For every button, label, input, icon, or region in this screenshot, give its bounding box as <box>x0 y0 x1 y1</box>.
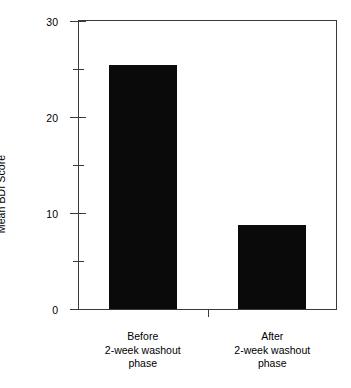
bar-chart-figure: Mean BDI Score 0102030 Before 2-week was… <box>0 0 351 388</box>
x-label-before-line2: 2-week washout <box>78 344 208 358</box>
x-label-after: After 2-week washout phase <box>208 330 338 386</box>
y-tick-inner-30 <box>79 21 86 22</box>
bar-before <box>109 65 177 309</box>
x-label-before: Before 2-week washout phase <box>78 330 208 386</box>
x-label-after-line3: phase <box>208 357 338 371</box>
y-axis-title-text: Mean BDI Score <box>0 155 7 233</box>
y-tick-inner-20 <box>79 117 86 118</box>
y-tick-major-10: 10 <box>70 213 79 214</box>
x-label-before-line3: phase <box>78 357 208 371</box>
x-label-before-line1: Before <box>78 330 208 344</box>
x-axis-labels: Before 2-week washout phase After 2-week… <box>78 330 337 386</box>
y-tick-major-0: 0 <box>70 309 79 310</box>
y-tick-inner-minor-5 <box>79 261 84 262</box>
y-tick-inner-minor-15 <box>79 165 84 166</box>
x-label-after-line2: 2-week washout <box>208 344 338 358</box>
y-tick-label-30: 30 <box>46 16 58 28</box>
y-tick-inner-10 <box>79 213 86 214</box>
x-axis-divider-tick <box>208 309 209 317</box>
plot-area: 0102030 <box>78 20 337 310</box>
y-tick-major-20: 20 <box>70 117 79 118</box>
y-tick-inner-0 <box>79 309 86 310</box>
y-tick-label-0: 0 <box>52 304 58 316</box>
bar-after <box>238 225 306 309</box>
y-tick-label-20: 20 <box>46 112 58 124</box>
y-tick-major-30: 30 <box>70 21 79 22</box>
y-tick-label-10: 10 <box>46 208 58 220</box>
x-label-after-line1: After <box>208 330 338 344</box>
y-tick-inner-minor-25 <box>79 69 84 70</box>
y-axis-title: Mean BDI Score <box>30 0 60 388</box>
